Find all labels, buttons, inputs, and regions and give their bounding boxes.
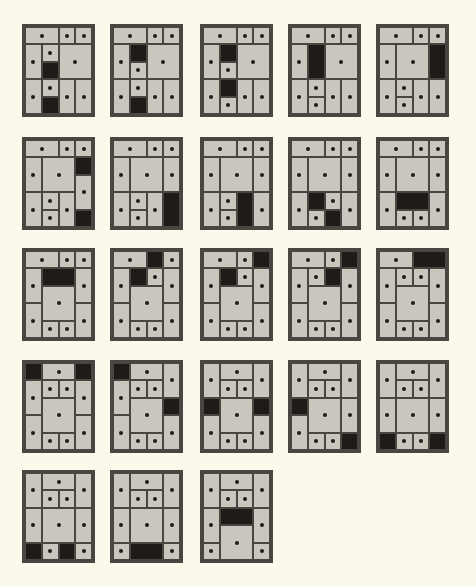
block-dot-icon (48, 549, 52, 553)
block-dot-icon (402, 275, 406, 279)
block-dot-icon (235, 541, 239, 545)
puzzle-block (203, 303, 220, 338)
block-dot-icon (436, 95, 440, 99)
block-dot-icon (260, 173, 264, 177)
puzzle-block (237, 268, 254, 285)
block-dot-icon (57, 370, 61, 374)
puzzle-block (75, 268, 92, 303)
empty-space (113, 363, 130, 380)
puzzle-block (75, 251, 92, 268)
block-dot-icon (136, 497, 140, 501)
puzzle-block (113, 508, 130, 543)
puzzle-block (379, 363, 396, 398)
puzzle-block (308, 157, 342, 192)
block-dot-icon (402, 216, 406, 220)
puzzle-block (291, 303, 308, 338)
block-dot-icon (209, 60, 213, 64)
block-dot-icon (436, 173, 440, 177)
block-dot-icon (153, 95, 157, 99)
puzzle-block (220, 286, 254, 321)
block-dot-icon (323, 173, 327, 177)
block-dot-icon (385, 413, 389, 417)
puzzle-block (147, 268, 164, 285)
block-dot-icon (128, 147, 132, 151)
block-dot-icon (394, 147, 398, 151)
puzzle-block (379, 157, 396, 192)
puzzle-block (25, 157, 42, 192)
empty-space (163, 192, 180, 227)
block-dot-icon (339, 60, 343, 64)
block-dot-icon (40, 258, 44, 262)
block-dot-icon (119, 396, 123, 400)
puzzle-block (42, 433, 59, 450)
block-dot-icon (119, 549, 123, 553)
puzzle-block (203, 79, 220, 114)
puzzle-block (113, 140, 147, 157)
block-dot-icon (331, 95, 335, 99)
puzzle-block (42, 363, 76, 380)
puzzle-block (291, 140, 325, 157)
puzzle-block (413, 79, 430, 114)
empty-space (308, 44, 325, 79)
block-dot-icon (260, 549, 264, 553)
block-dot-icon (170, 431, 174, 435)
puzzle-block (75, 303, 92, 338)
puzzle-block (253, 192, 270, 227)
puzzle-block (341, 157, 358, 192)
puzzle-block (253, 363, 270, 398)
block-dot-icon (136, 86, 140, 90)
puzzle-block (253, 79, 270, 114)
puzzle-block (113, 543, 130, 560)
block-dot-icon (348, 208, 352, 212)
puzzle-block (25, 508, 42, 543)
block-dot-icon (136, 387, 140, 391)
puzzle-block (147, 321, 164, 338)
puzzle-block (203, 268, 220, 303)
block-dot-icon (136, 216, 140, 220)
puzzle-block (379, 79, 396, 114)
empty-space (75, 210, 92, 227)
block-dot-icon (251, 60, 255, 64)
block-dot-icon (82, 549, 86, 553)
empty-space (253, 398, 270, 415)
puzzle-block (163, 27, 180, 44)
puzzle-block (113, 415, 130, 450)
puzzle-state-9 (288, 137, 361, 230)
block-dot-icon (260, 284, 264, 288)
block-dot-icon (170, 95, 174, 99)
block-dot-icon (235, 413, 239, 417)
block-dot-icon (411, 413, 415, 417)
block-dot-icon (226, 199, 230, 203)
block-dot-icon (411, 301, 415, 305)
puzzle-block (413, 268, 430, 285)
block-dot-icon (82, 488, 86, 492)
empty-space (25, 543, 42, 560)
block-dot-icon (31, 95, 35, 99)
puzzle-block (203, 157, 220, 192)
block-dot-icon (209, 319, 213, 323)
block-dot-icon (82, 95, 86, 99)
puzzle-block (291, 157, 308, 192)
empty-space (203, 398, 220, 415)
block-dot-icon (82, 34, 86, 38)
puzzle-block (75, 79, 92, 114)
puzzle-block (130, 433, 147, 450)
puzzle-block (253, 415, 270, 450)
puzzle-block (429, 303, 446, 338)
puzzle-block (130, 380, 147, 397)
block-dot-icon (31, 60, 35, 64)
puzzle-block (237, 27, 254, 44)
puzzle-block (75, 508, 92, 543)
block-dot-icon (48, 497, 52, 501)
block-dot-icon (153, 208, 157, 212)
block-dot-icon (314, 103, 318, 107)
block-dot-icon (73, 60, 77, 64)
block-dot-icon (331, 387, 335, 391)
block-dot-icon (40, 34, 44, 38)
puzzle-block (237, 433, 254, 450)
block-dot-icon (119, 431, 123, 435)
block-dot-icon (348, 378, 352, 382)
puzzle-block (237, 140, 254, 157)
block-dot-icon (119, 173, 123, 177)
puzzle-block (308, 210, 325, 227)
